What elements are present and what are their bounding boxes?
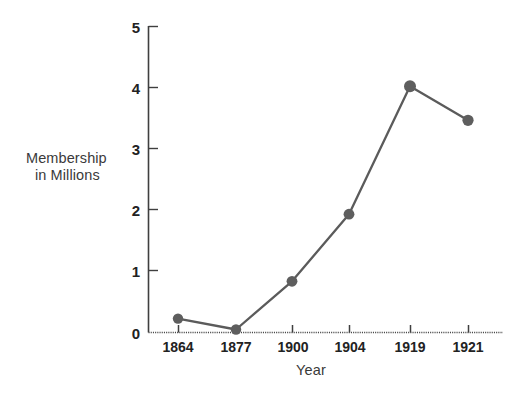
data-point-1900[interactable]: [287, 276, 298, 287]
line-chart: 5 4 3 2 1 0 1864 1877 1900 1904 1919 192…: [0, 0, 518, 403]
data-point-1904[interactable]: [344, 209, 355, 220]
y-tick-label-5: 5: [124, 19, 140, 36]
y-axis-title-line-2: in Millions: [26, 167, 138, 184]
data-point-1919[interactable]: [404, 80, 416, 92]
x-axis-title: Year: [296, 362, 326, 378]
data-point-1877[interactable]: [231, 324, 241, 334]
y-axis-title: Membership in Millions: [26, 150, 138, 184]
x-tick-label-1921: 1921: [441, 339, 495, 355]
x-tick-label-1904: 1904: [323, 339, 377, 355]
y-tick-label-1: 1: [124, 263, 140, 280]
x-tick-label-1900: 1900: [266, 339, 320, 355]
y-tick-label-4: 4: [124, 80, 140, 97]
x-tick-label-1864: 1864: [151, 339, 205, 355]
y-axis-title-line-1: Membership: [26, 150, 107, 166]
y-tick-label-2: 2: [124, 202, 140, 219]
y-tick-label-0: 0: [124, 325, 140, 342]
data-point-1921[interactable]: [462, 115, 473, 126]
data-point-1864[interactable]: [173, 313, 183, 323]
x-tick-label-1919: 1919: [383, 339, 437, 355]
x-tick-label-1877: 1877: [209, 339, 263, 355]
